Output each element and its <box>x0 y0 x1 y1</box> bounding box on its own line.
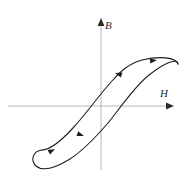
h-axis-label: H <box>160 88 168 99</box>
b-axis-label: B <box>105 20 112 31</box>
hysteresis-bh-diagram <box>0 0 183 183</box>
figure-background <box>0 0 183 183</box>
